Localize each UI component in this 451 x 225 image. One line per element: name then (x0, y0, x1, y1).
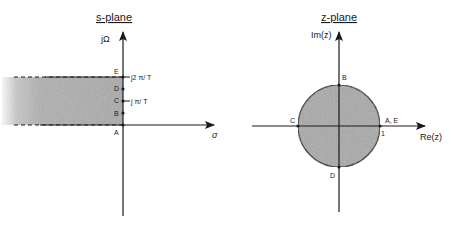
point-A-label: A (114, 129, 119, 136)
z-point-AE-marker (378, 124, 381, 127)
imag-axis-label: Im(z) (311, 30, 332, 40)
real-axis-label: Re(z) (420, 132, 442, 142)
z-point-D-marker (337, 165, 340, 168)
s-plane-diagram: s-plane jΩ σ E D C B A j2 π/ T j π/ T (2, 11, 218, 216)
tick-label-pi-over-T: j π/ T (130, 98, 148, 106)
z-point-B-label: B (342, 74, 347, 81)
z-point-C-label: C (290, 117, 295, 124)
z-point-C-marker (296, 124, 299, 127)
point-D-marker (121, 87, 124, 90)
z-point-AE-label: A, E (385, 117, 399, 124)
point-D-label: D (114, 85, 119, 92)
jomega-axis-label: jΩ (100, 34, 110, 44)
s-plane-title: s-plane (96, 11, 132, 23)
diagram-canvas: s-plane jΩ σ E D C B A j2 π/ T j π/ T z-… (0, 0, 451, 225)
point-C-label: C (114, 97, 119, 104)
point-A-marker (121, 123, 124, 126)
unit-circle-label-one: 1 (381, 130, 385, 137)
z-plane-diagram: z-plane Im(z) Re(z) B C A, E 1 D (252, 11, 442, 212)
point-B-marker (121, 111, 124, 114)
sigma-axis-label: σ (212, 130, 218, 140)
z-point-B-marker (337, 83, 340, 86)
z-point-D-label: D (330, 172, 335, 179)
z-plane-title: z-plane (321, 11, 357, 23)
point-B-label: B (114, 110, 119, 117)
tick-label-2pi-over-T: j2 π/ T (130, 74, 152, 82)
s-plane-shaded-strip (2, 77, 123, 125)
point-E-label: E (114, 68, 119, 75)
